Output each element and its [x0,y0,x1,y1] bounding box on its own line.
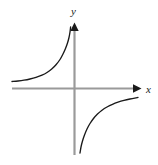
arrow-up-icon [70,23,78,32]
curve-upper-left-branch [12,27,71,82]
hyperbola-figure: y x [0,0,158,165]
x-axis-label: x [146,84,151,95]
y-axis-label: y [71,6,76,17]
arrow-right-icon [133,84,142,92]
plot-canvas [0,0,158,165]
curve-lower-right-branch [80,97,138,153]
